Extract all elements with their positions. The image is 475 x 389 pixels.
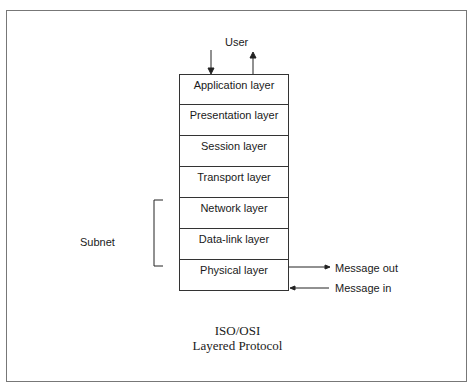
title-line-1: ISO/OSI (0, 323, 475, 338)
subnet-bracket (154, 200, 163, 266)
diagram-title: ISO/OSI Layered Protocol (0, 323, 475, 353)
title-line-2: Layered Protocol (0, 338, 475, 353)
